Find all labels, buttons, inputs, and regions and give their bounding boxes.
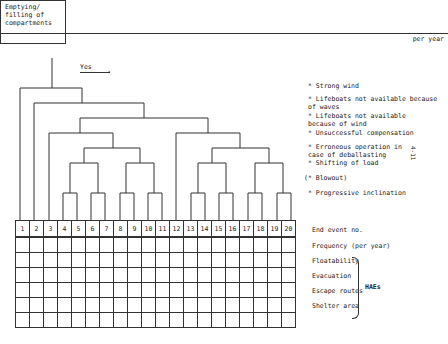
end-event-table: 1 2 3 4 5 6 7 8 9 10 11 12 13 14 15 16 1… — [15, 220, 296, 328]
table-cell — [170, 283, 184, 298]
leaf-pair-17-18 — [248, 163, 262, 220]
table-cell — [268, 313, 282, 328]
table-cell — [72, 253, 86, 268]
table-cell — [156, 253, 170, 268]
end-event-cell: 2 — [30, 221, 44, 238]
table-cell — [142, 283, 156, 298]
table-cell — [114, 298, 128, 313]
annotation-item: * Lifeboats not available because of win… — [308, 113, 406, 128]
table-cell — [240, 313, 254, 328]
table-cell — [100, 298, 114, 313]
table-cell — [86, 313, 100, 328]
table-cell — [184, 268, 198, 283]
table-cell — [184, 313, 198, 328]
branch-left-b — [84, 133, 140, 148]
table-cell — [114, 253, 128, 268]
table-cell — [170, 298, 184, 313]
table-cell — [86, 253, 100, 268]
table-cell — [198, 283, 212, 298]
leaf-pair-13-14 — [191, 163, 205, 220]
end-event-cell: 6 — [86, 221, 100, 238]
table-cell — [240, 298, 254, 313]
table-cell — [114, 313, 128, 328]
table-cell — [30, 237, 44, 253]
table-cell — [58, 283, 72, 298]
table-cell — [128, 237, 142, 253]
table-cell — [128, 313, 142, 328]
end-event-cell: 17 — [240, 221, 254, 238]
table-cell — [100, 313, 114, 328]
table-cell — [226, 237, 240, 253]
table-cell — [86, 237, 100, 253]
side-note: 4-11 — [410, 146, 417, 160]
table-cell — [240, 283, 254, 298]
leaf-pair-6-7 — [91, 163, 105, 220]
end-event-cell: 14 — [198, 221, 212, 238]
table-cell — [156, 237, 170, 253]
table-cell — [282, 237, 296, 253]
table-cell — [226, 283, 240, 298]
table-cell — [128, 268, 142, 283]
branch-right-a — [176, 118, 240, 220]
branch-level-3 — [80, 103, 208, 118]
table-cell — [44, 253, 58, 268]
table-cell — [30, 253, 44, 268]
branch-level-2 — [34, 88, 144, 220]
table-cell — [282, 283, 296, 298]
end-event-number-row: 1 2 3 4 5 6 7 8 9 10 11 12 13 14 15 16 1… — [16, 221, 296, 238]
row-label: Evacuation — [312, 272, 351, 280]
leaf-pair-8-9 — [120, 163, 134, 220]
table-cell — [100, 268, 114, 283]
table-cell — [156, 313, 170, 328]
table-cell — [170, 237, 184, 253]
table-cell — [254, 283, 268, 298]
table-row — [16, 298, 296, 313]
table-cell — [72, 268, 86, 283]
table-cell — [16, 253, 30, 268]
table-row — [16, 313, 296, 328]
table-cell — [156, 283, 170, 298]
table-cell — [282, 298, 296, 313]
branch-left-c1 — [70, 148, 98, 163]
table-cell — [44, 283, 58, 298]
leaf-pair-4-5 — [63, 163, 77, 220]
table-cell — [240, 268, 254, 283]
table-cell — [100, 237, 114, 253]
table-cell — [170, 268, 184, 283]
table-cell — [198, 237, 212, 253]
table-cell — [282, 313, 296, 328]
table-cell — [16, 298, 30, 313]
end-event-cell: 19 — [268, 221, 282, 238]
end-event-cell: 10 — [142, 221, 156, 238]
table-cell — [212, 268, 226, 283]
end-event-cell: 3 — [44, 221, 58, 238]
table-cell — [254, 298, 268, 313]
table-cell — [72, 298, 86, 313]
end-event-cell: 11 — [156, 221, 170, 238]
table-cell — [282, 253, 296, 268]
end-event-cell: 16 — [226, 221, 240, 238]
table-cell — [86, 268, 100, 283]
branch-level-1 — [20, 58, 82, 220]
table-cell — [254, 253, 268, 268]
table-cell — [86, 283, 100, 298]
table-cell — [142, 268, 156, 283]
table-cell — [226, 313, 240, 328]
end-event-cell: 12 — [170, 221, 184, 238]
annotation-item: * Progressive inclination — [308, 190, 406, 198]
table-cell — [44, 237, 58, 253]
leaf-pair-15-16 — [219, 163, 233, 220]
table-cell — [16, 268, 30, 283]
table-cell — [268, 268, 282, 283]
table-cell — [184, 283, 198, 298]
table-cell — [156, 268, 170, 283]
annotation-item: * Unsuccessful compensation — [308, 130, 414, 138]
table-cell — [58, 237, 72, 253]
branch-right-c1 — [198, 148, 226, 163]
annotation-item: * Lifeboats not available because of wav… — [308, 96, 437, 111]
table-cell — [142, 253, 156, 268]
table-cell — [44, 298, 58, 313]
table-cell — [156, 298, 170, 313]
table-cell — [72, 313, 86, 328]
end-event-cell: 8 — [114, 221, 128, 238]
